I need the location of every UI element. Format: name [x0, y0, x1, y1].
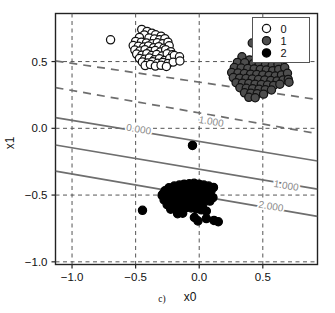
scatter-plot-figure: 2.0002.0001.0001.0000.0000.0001.0001.000…	[0, 0, 335, 313]
y-tick-label: −1.0	[25, 256, 48, 268]
y-tick-label: −0.5	[25, 189, 48, 201]
legend-marker-2	[262, 49, 270, 57]
x-axis-title: x0	[184, 290, 197, 304]
legend-marker-0	[262, 24, 270, 32]
plot-canvas: 2.0002.0001.0001.0000.0000.0001.0001.000…	[0, 0, 335, 313]
x-tick-label: 0.5	[255, 271, 271, 283]
legend-marker-1	[262, 37, 270, 45]
data-point-class-2	[179, 209, 187, 217]
data-point-class-1	[259, 90, 267, 98]
data-point-class-0	[176, 57, 184, 65]
data-point-class-0	[106, 36, 114, 44]
x-tick-label: −0.5	[124, 271, 147, 283]
legend: 012	[253, 18, 310, 63]
data-point-class-2	[188, 141, 196, 149]
y-tick-label: 0.0	[32, 122, 48, 134]
data-point-class-2	[214, 218, 222, 226]
legend-label-0: 0	[281, 23, 287, 35]
legend-label-1: 1	[281, 35, 287, 47]
panel-label: c)	[158, 294, 165, 305]
data-point-class-2	[194, 217, 202, 225]
data-point-class-1	[276, 80, 284, 88]
data-point-class-2	[138, 206, 146, 214]
data-point-class-2	[202, 214, 210, 222]
data-point-class-1	[267, 86, 275, 94]
legend-label-2: 2	[281, 47, 287, 59]
data-point-class-1	[285, 78, 293, 86]
x-tick-label: 0.0	[191, 271, 207, 283]
y-tick-label: 0.5	[32, 56, 48, 68]
y-axis-title: x1	[3, 136, 17, 149]
data-point-class-0	[162, 62, 170, 70]
x-tick-label: −1.0	[61, 271, 84, 283]
data-point-class-1	[251, 94, 259, 102]
